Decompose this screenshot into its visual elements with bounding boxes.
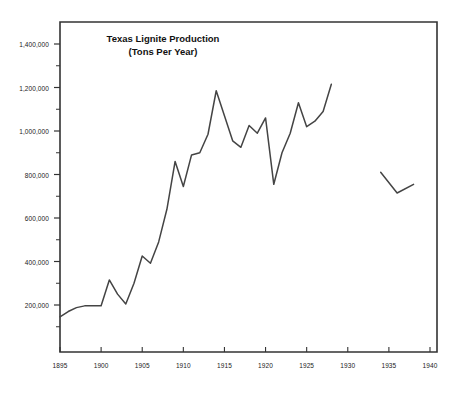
chart-title-block: Texas Lignite Production (Tons Per Year) [78,32,248,58]
x-axis-tick-label: 1900 [94,362,109,369]
y-axis-tick-label: 400,000 [0,258,49,265]
chart-plot-area [0,0,469,393]
x-axis-tick-label: 1915 [217,362,232,369]
x-axis-tick-label: 1895 [53,362,68,369]
y-axis-tick-label: 1,000,000 [0,128,49,135]
y-axis-tick-label: 1,200,000 [0,84,49,91]
x-axis-tick-label: 1920 [258,362,273,369]
chart-subtitle: (Tons Per Year) [78,45,248,58]
y-axis-ticks [54,44,60,327]
chart-container: Texas Lignite Production (Tons Per Year)… [0,0,469,393]
y-axis-tick-label: 800,000 [0,171,49,178]
data-line-main-series [60,84,331,317]
y-axis-tick-label: 1,400,000 [0,41,49,48]
axis-frame-lines [60,22,437,352]
page-title: Texas Lignite Production [78,32,248,45]
data-line-late-series [381,172,414,193]
x-axis-tick-label: 1925 [299,362,314,369]
plot-frame [60,22,437,352]
x-axis-tick-label: 1940 [423,362,438,369]
x-axis-tick-label: 1930 [340,362,355,369]
y-axis-tick-label: 600,000 [0,215,49,222]
x-axis-tick-label: 1935 [381,362,396,369]
y-axis-tick-label: 200,000 [0,302,49,309]
x-axis-tick-label: 1910 [176,362,191,369]
x-axis-tick-label: 1905 [135,362,150,369]
